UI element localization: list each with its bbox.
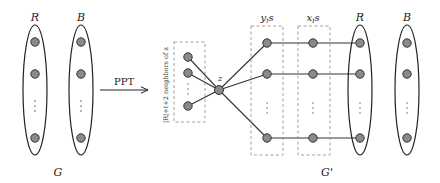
edge-neighbor-n-z: [188, 90, 219, 106]
right-graph-label: G': [321, 166, 333, 179]
left-b-ellipsis-dot: [80, 110, 82, 112]
ppt-label: PPT: [114, 76, 134, 87]
left-set-b: B: [69, 11, 93, 155]
left-r-ellipsis-dot: [34, 100, 36, 102]
neighbor-ellipsis-dot: [187, 88, 188, 89]
left-r-ellipsis-dot: [34, 105, 36, 107]
y-box-label: yis: [259, 12, 273, 25]
edge-z-y2: [219, 74, 267, 90]
left-b-node-2: [77, 70, 85, 78]
right-set-r-label: R: [355, 11, 364, 24]
y-node-1: [263, 39, 271, 47]
x-node-n: [309, 134, 317, 142]
right-set-b-label: B: [402, 11, 411, 24]
neighbor-node-1: [184, 53, 192, 61]
left-b-node-1: [77, 38, 85, 46]
right-r-ellipsis-dot: [359, 102, 360, 103]
left-b-ellipsis-dot: [80, 105, 82, 107]
right-set-b: B: [395, 11, 419, 155]
left-b-node-n: [77, 134, 85, 142]
y-ellipsis-dot: [266, 107, 267, 108]
right-b-ellipsis-dot: [406, 112, 407, 113]
left-r-node-n: [31, 134, 39, 142]
y-ellipsis-dot: [266, 102, 267, 103]
edge-neighbor-2-z: [188, 73, 219, 90]
left-r-node-1: [31, 38, 39, 46]
left-b-ellipsis-dot: [80, 100, 82, 102]
left-r-node-2: [31, 70, 39, 78]
left-graph-label: G: [54, 166, 63, 179]
left-set-r-label: R: [30, 11, 39, 24]
x-ellipsis-dot: [312, 102, 313, 103]
right-r-node-2: [356, 70, 364, 78]
right-graph-g-prime: |R|+t+2 neighbors of z z: [162, 11, 419, 179]
y-node-n: [263, 134, 271, 142]
ppt-reduction-diagram: R B G PPT: [0, 0, 440, 183]
neighbor-ellipsis-dot: [187, 93, 188, 94]
x-box-label-tail: s: [314, 12, 319, 23]
y-node-2: [263, 70, 271, 78]
edge-z-yn: [219, 90, 267, 138]
center-node-z: [215, 86, 224, 95]
left-r-ellipsis-dot: [34, 110, 36, 112]
edge-z-y1: [219, 43, 267, 90]
left-set-b-label: B: [76, 11, 85, 24]
right-b-node-2: [403, 70, 411, 78]
right-b-node-n: [403, 134, 411, 142]
right-b-node-1: [403, 39, 411, 47]
x-ellipsis-dot: [312, 107, 313, 108]
center-node-z-label: z: [217, 74, 223, 83]
x-node-1: [309, 39, 317, 47]
ppt-transform: PPT: [100, 76, 148, 90]
right-set-r: R: [348, 11, 372, 155]
y-ellipsis-dot: [266, 112, 267, 113]
right-r-ellipsis-dot: [359, 112, 360, 113]
left-graph-g: R B G: [23, 11, 93, 179]
neighbor-node-n: [184, 102, 192, 110]
right-r-ellipsis-dot: [359, 107, 360, 108]
right-r-node-n: [356, 134, 364, 142]
right-b-ellipsis-dot: [406, 107, 407, 108]
left-set-r: R: [23, 11, 47, 155]
x-node-2: [309, 70, 317, 78]
x-box-label: xis: [306, 12, 319, 25]
neighbor-node-2: [184, 69, 192, 77]
neighbor-box-label: |R|+t+2 neighbors of z: [162, 47, 170, 123]
y-box-label-tail: s: [268, 12, 273, 23]
neighbor-ellipsis-dot: [187, 83, 188, 84]
x-ellipsis-dot: [312, 112, 313, 113]
diagram-canvas: R B G PPT: [0, 0, 440, 183]
right-b-ellipsis-dot: [406, 102, 407, 103]
right-r-node-1: [356, 39, 364, 47]
